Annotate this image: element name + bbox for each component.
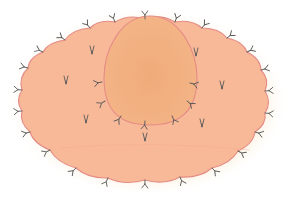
cell-diagram-canvas: [0, 0, 295, 198]
cell-diagram: [0, 0, 295, 198]
